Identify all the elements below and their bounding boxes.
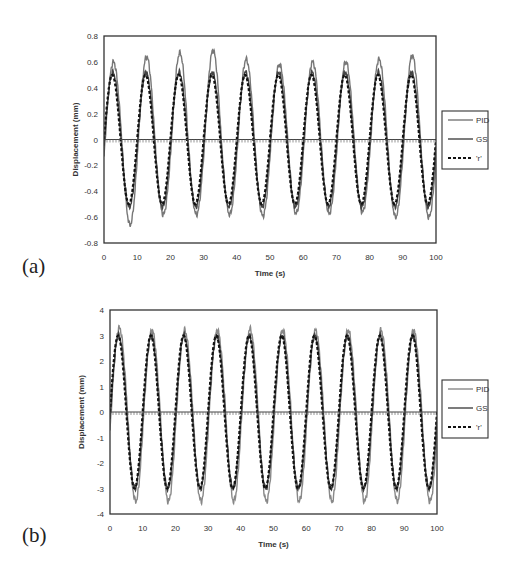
x-tick-label: 70 xyxy=(334,524,343,533)
legend: PIDGS'r' xyxy=(442,380,490,438)
x-axis-label: Time (s) xyxy=(258,540,289,549)
y-tick-label: 3 xyxy=(100,332,105,341)
y-tick-label: 0.2 xyxy=(87,110,99,119)
x-tick-label: 20 xyxy=(171,524,180,533)
x-tick-label: 80 xyxy=(365,253,374,262)
legend-label: GS xyxy=(476,404,488,413)
y-tick-label: 0 xyxy=(94,136,99,145)
legend-label: 'r' xyxy=(476,154,482,163)
x-tick-label: 90 xyxy=(398,253,407,262)
x-tick-label: 70 xyxy=(332,253,341,262)
x-tick-label: 20 xyxy=(166,253,175,262)
y-tick-label: -4 xyxy=(97,510,105,519)
x-axis-label: Time (s) xyxy=(255,269,286,278)
chart-panel-a: 0.80.60.40.20-0.2-0.4-0.6-0.801020304050… xyxy=(0,0,522,290)
x-tick-label: 100 xyxy=(430,524,444,533)
x-tick-label: 60 xyxy=(302,524,311,533)
y-tick-label: 0.6 xyxy=(87,58,99,67)
panel-label-a: (a) xyxy=(22,254,45,279)
chart-b-canvas: 43210-1-2-3-40102030405060708090100Time … xyxy=(0,290,522,585)
y-tick-label: 4 xyxy=(100,306,105,315)
y-tick-label: 2 xyxy=(100,357,105,366)
x-tick-label: 100 xyxy=(429,253,443,262)
legend-label: GS xyxy=(476,135,488,144)
chart-panel-b: 43210-1-2-3-40102030405060708090100Time … xyxy=(0,290,522,585)
legend: PIDGS'r' xyxy=(442,111,490,169)
y-axis-label: Displacement (mm) xyxy=(71,102,80,176)
legend-label: PID xyxy=(476,385,490,394)
plot-area xyxy=(110,326,437,504)
panel-label-b: (b) xyxy=(22,523,47,548)
y-tick-label: -0.4 xyxy=(84,187,98,196)
chart-a-canvas: 0.80.60.40.20-0.2-0.4-0.6-0.801020304050… xyxy=(0,0,522,290)
y-tick-label: -1 xyxy=(97,434,105,443)
x-tick-label: 90 xyxy=(400,524,409,533)
legend-label: PID xyxy=(476,116,490,125)
y-tick-label: 0.8 xyxy=(87,32,99,41)
x-tick-label: 40 xyxy=(232,253,241,262)
y-tick-label: 0 xyxy=(100,408,105,417)
y-axis-label: Displacement (mm) xyxy=(77,375,86,449)
x-tick-label: 40 xyxy=(236,524,245,533)
x-tick-label: 80 xyxy=(367,524,376,533)
x-tick-label: 50 xyxy=(269,524,278,533)
x-tick-label: 50 xyxy=(266,253,275,262)
x-tick-label: 0 xyxy=(108,524,113,533)
plot-area xyxy=(104,50,436,227)
y-tick-label: 0.4 xyxy=(87,84,99,93)
y-tick-label: -0.6 xyxy=(84,213,98,222)
y-tick-label: 1 xyxy=(100,383,105,392)
y-tick-label: -3 xyxy=(97,485,105,494)
x-tick-label: 10 xyxy=(133,253,142,262)
y-tick-label: -0.8 xyxy=(84,239,98,248)
x-tick-label: 30 xyxy=(199,253,208,262)
legend-label: 'r' xyxy=(476,423,482,432)
x-tick-label: 10 xyxy=(138,524,147,533)
x-tick-label: 0 xyxy=(102,253,107,262)
y-tick-label: -2 xyxy=(97,459,105,468)
y-tick-label: -0.2 xyxy=(84,161,98,170)
x-tick-label: 60 xyxy=(299,253,308,262)
x-tick-label: 30 xyxy=(204,524,213,533)
